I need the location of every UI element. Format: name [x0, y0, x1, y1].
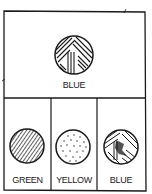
label-top-blue: BLUE	[54, 80, 94, 90]
comic-frame	[0, 0, 152, 194]
yarn-ball-yellow-icon	[56, 130, 90, 164]
label-bottom-blue: BLUE	[97, 175, 145, 185]
label-green: GREEN	[4, 175, 51, 185]
yarn-ball-green-icon	[10, 129, 44, 163]
label-yellow: YELLOW	[51, 175, 97, 185]
yarn-ball-top-icon	[55, 36, 93, 74]
yarn-ball-blue-icon	[104, 130, 138, 166]
